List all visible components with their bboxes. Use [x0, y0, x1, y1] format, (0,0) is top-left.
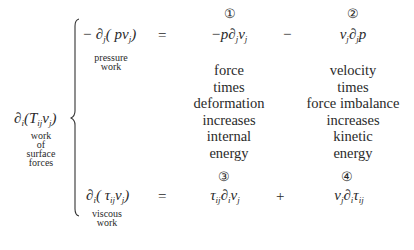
- equals-sign: =: [158, 27, 166, 44]
- term-2-expression: vj∂jp: [340, 26, 367, 44]
- term-2-description: velocity times force imbalance increases…: [307, 62, 400, 161]
- pressure-work-term: − ∂j( pvj): [82, 26, 136, 44]
- term-3-expression: τij∂ivj: [210, 187, 240, 205]
- lhs-expression: ∂i(Tijvj): [14, 110, 56, 128]
- term-number-2: ②: [347, 6, 359, 22]
- term-1-expression: −p∂jvj: [211, 26, 248, 44]
- term-4-expression: vj∂iτij: [334, 187, 364, 205]
- term-number-1: ①: [224, 6, 236, 22]
- term-number-3: ③: [218, 169, 230, 185]
- plus-operator: +: [276, 188, 284, 205]
- term-number-4: ④: [341, 169, 353, 185]
- minus-operator: −: [283, 26, 291, 43]
- term-1-description: force times deformation increases intern…: [194, 62, 265, 161]
- viscous-work-label: viscous work: [92, 209, 122, 227]
- equals-sign: =: [158, 188, 166, 205]
- pressure-work-label: pressure work: [94, 53, 127, 71]
- viscous-work-term: ∂i( τijvj): [86, 187, 129, 205]
- lhs-label: work of surface forces: [27, 131, 56, 167]
- left-brace-icon: [70, 18, 80, 217]
